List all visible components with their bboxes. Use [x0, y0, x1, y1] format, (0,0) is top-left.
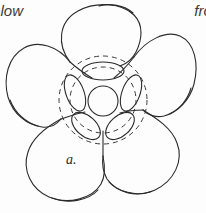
- inner-dashed-circle: [70, 67, 136, 133]
- petal-top: [61, 5, 141, 66]
- petal-upper-right-break: [170, 88, 191, 114]
- central-disc: [88, 86, 118, 116]
- petal-upper-left: [6, 44, 70, 127]
- seam-upper-right: [114, 57, 134, 78]
- caption-fragment-left: elow: [0, 2, 23, 19]
- petal-lower-right-break: [109, 182, 150, 194]
- petal-upper-left-break: [10, 100, 38, 126]
- petal-group: [6, 5, 196, 201]
- figure-root: elow fro a.: [0, 0, 206, 213]
- petal-upper-right: [134, 34, 196, 116]
- petal-lower-right: [103, 110, 180, 194]
- caption-fragment-right: fro: [194, 2, 206, 19]
- flower-diagram: [0, 0, 206, 213]
- part-label: a.: [66, 152, 77, 168]
- stamen-left: [60, 72, 90, 114]
- petal-seam-group: [61, 57, 143, 156]
- seam-left: [61, 112, 85, 119]
